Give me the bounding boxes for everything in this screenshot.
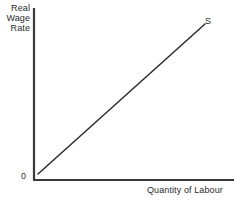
- y-axis-label-line-3: Rate: [0, 23, 30, 33]
- y-axis-label: Real Wage Rate: [0, 3, 30, 33]
- supply-curve-label: S: [205, 16, 211, 26]
- x-axis-label: Quantity of Labour: [147, 185, 223, 195]
- origin-label: 0: [21, 171, 26, 181]
- chart-canvas: [0, 0, 235, 207]
- y-axis-label-line-2: Wage: [0, 13, 30, 23]
- supply-curve-line: [38, 24, 205, 174]
- labour-supply-curve-figure: Real Wage Rate Quantity of Labour 0 S: [0, 0, 235, 207]
- y-axis-label-line-1: Real: [0, 3, 30, 13]
